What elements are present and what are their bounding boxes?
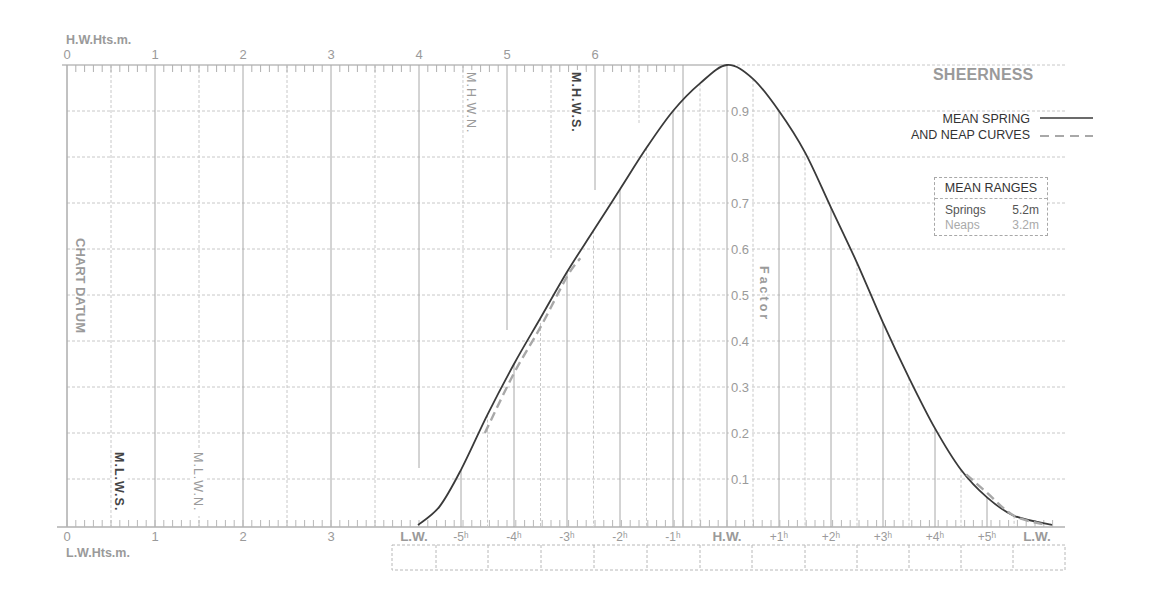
top-tick-label: 3 [327,47,334,62]
tidal-curve-chart: 0123456H.W.Hts.m.0123L.W.Hts.m.0.10.20.3… [0,0,1150,608]
top-tick-label: 0 [63,47,70,62]
factor-tick-label: 0.1 [731,472,749,487]
springs-value: 5.2m [1012,203,1039,217]
factor-tick-label: 0.7 [731,196,749,211]
time-tick-label: L.W. [1023,529,1051,544]
height-marker-label: M.H.W.N. [464,72,478,133]
mean-ranges-box: MEAN RANGES Springs 5.2m Neaps 3.2m [934,177,1048,236]
time-tick-label: H.W. [712,529,741,544]
springs-label: Springs [945,203,986,217]
time-tick-label: +3ʰ [874,530,893,544]
chart-datum-label: CHART DATUM [73,238,88,333]
time-tick-label: +2ʰ [822,530,841,544]
bottom-tick-label: 1 [151,529,158,544]
factor-axis-label: Factor [757,266,771,322]
time-tick-label: +4ʰ [926,530,945,544]
legend-spring-label: MEAN SPRING [897,112,1030,126]
top-tick-label: 1 [151,47,158,62]
time-tick-label: -1ʰ [665,530,681,544]
height-marker-label: M.L.W.N. [191,452,205,511]
neaps-row: Neaps 3.2m [935,217,1047,235]
hw-heights-label: H.W.Hts.m. [66,33,131,47]
time-tick-label: +1ʰ [770,530,789,544]
top-tick-label: 4 [415,47,422,62]
neap-curve-falling [966,474,1046,525]
bottom-tick-label: 0 [63,529,70,544]
top-tick-label: 5 [503,47,510,62]
top-tick-label: 6 [591,47,598,62]
factor-tick-label: 0.9 [731,104,749,119]
time-tick-label: -4ʰ [506,530,522,544]
lw-heights-label: L.W.Hts.m. [66,546,130,560]
chart-title: SHEERNESS [933,66,1034,84]
time-tick-label: -2ʰ [612,530,628,544]
factor-tick-label: 0.2 [731,426,749,441]
neaps-label: Neaps [945,218,980,232]
factor-tick-label: 0.6 [731,242,749,257]
springs-row: Springs 5.2m [935,199,1047,217]
neaps-value: 3.2m [1012,218,1039,232]
height-marker-label: M.H.W.S. [569,72,583,133]
legend-neap-label: AND NEAP CURVES [897,128,1030,142]
neap-curve-rising [485,258,580,433]
time-tick-label: -3ʰ [559,530,575,544]
factor-tick-label: 0.4 [731,334,749,349]
factor-tick-label: 0.5 [731,288,749,303]
bottom-margin [0,593,1150,608]
time-tick-label: -5ʰ [453,530,469,544]
time-tick-label: L.W. [400,529,428,544]
bottom-tick-label: 2 [239,529,246,544]
factor-tick-label: 0.3 [731,380,749,395]
bottom-tick-label: 3 [327,529,334,544]
mean-ranges-header: MEAN RANGES [935,178,1047,199]
height-marker-label: M.L.W.S. [112,452,126,511]
legend-line-samples [1038,110,1098,144]
time-tick-label: +5ʰ [978,530,997,544]
top-tick-label: 2 [239,47,246,62]
factor-tick-label: 0.8 [731,150,749,165]
time-entry-row [392,545,1065,570]
